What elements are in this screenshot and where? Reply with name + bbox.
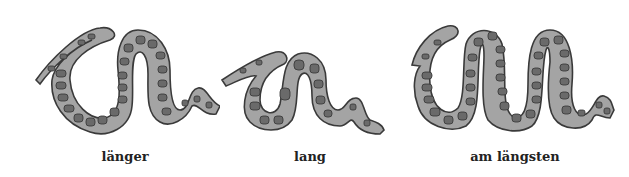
- snake-longer-illustration: [30, 10, 220, 135]
- label-longest: am längsten: [455, 149, 575, 164]
- label-long: lang: [280, 149, 340, 164]
- snake-longest-illustration: [400, 10, 615, 135]
- label-longer: länger: [75, 149, 175, 164]
- snake-long-illustration: [220, 40, 385, 135]
